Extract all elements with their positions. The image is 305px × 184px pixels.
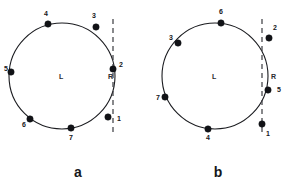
node-group-b xyxy=(162,20,272,132)
node-label: 6 xyxy=(219,8,223,15)
node-label: 4 xyxy=(44,10,48,17)
node-dot[interactable] xyxy=(205,126,211,132)
node-dot[interactable] xyxy=(266,35,272,41)
node-label: 7 xyxy=(156,94,160,101)
node-dot[interactable] xyxy=(110,66,116,72)
node-label: 2 xyxy=(273,24,277,31)
node-dot[interactable] xyxy=(105,114,111,120)
node-label-group-a: 1 2 3 4 5 6 7 xyxy=(4,10,123,141)
region-label-right-b: R xyxy=(271,73,276,80)
node-dot[interactable] xyxy=(162,94,168,100)
node-label: 3 xyxy=(169,34,173,41)
node-label: 1 xyxy=(117,115,121,122)
node-dot[interactable] xyxy=(259,121,265,127)
node-label: 7 xyxy=(69,134,73,141)
node-label: 3 xyxy=(92,12,96,19)
node-label: 6 xyxy=(22,121,26,128)
node-label: 5 xyxy=(277,86,281,93)
node-label: 2 xyxy=(119,61,123,68)
panel-b: L R 1 2 3 4 5 6 7 b xyxy=(156,8,281,180)
two-circle-partition-diagram: L R 1 2 3 4 5 6 7 a L R xyxy=(0,0,305,184)
node-label: 1 xyxy=(266,130,270,137)
node-label: 4 xyxy=(206,134,210,141)
node-dot[interactable] xyxy=(8,69,14,75)
node-dot[interactable] xyxy=(68,125,74,131)
node-dot[interactable] xyxy=(93,24,99,30)
region-label-left-b: L xyxy=(212,73,217,80)
node-dot[interactable] xyxy=(175,40,181,46)
panel-a: L R 1 2 3 4 5 6 7 a xyxy=(4,10,123,180)
region-label-right-a: R xyxy=(108,73,113,80)
node-dot[interactable] xyxy=(45,21,51,27)
region-label-left-a: L xyxy=(59,73,64,80)
panel-caption-b: b xyxy=(214,164,223,180)
node-dot[interactable] xyxy=(27,116,33,122)
node-dot[interactable] xyxy=(265,87,271,93)
node-label: 5 xyxy=(4,65,8,72)
node-dot[interactable] xyxy=(218,20,224,26)
panel-caption-a: a xyxy=(74,164,82,180)
